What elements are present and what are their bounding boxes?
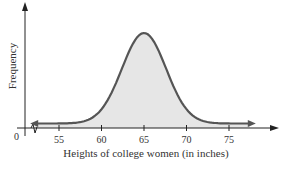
x-tick-label: 55 [54, 134, 64, 145]
x-axis-label: Heights of college women (in inches) [63, 147, 229, 160]
x-tick-label: 60 [97, 134, 107, 145]
origin-label: 0 [14, 131, 19, 142]
y-axis-arrow-icon [22, 2, 28, 11]
y-axis-label: Frequency [6, 42, 18, 89]
x-axis-arrow-icon [270, 125, 279, 131]
x-tick-label: 70 [182, 134, 192, 145]
x-tick-label: 65 [139, 134, 149, 145]
curve-left-arrow-icon [30, 120, 38, 127]
normal-distribution-chart: 5560657075 0 Frequency Heights of colleg… [0, 0, 289, 176]
x-tick-label: 75 [224, 134, 234, 145]
curve-fill-area [35, 33, 250, 128]
curve-right-arrow-icon [248, 120, 256, 127]
